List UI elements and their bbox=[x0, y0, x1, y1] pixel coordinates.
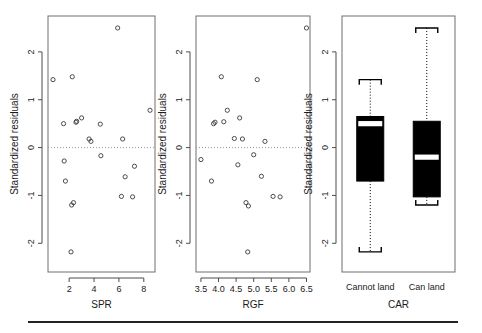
y-tick-label-rgf-3: -1 bbox=[174, 191, 184, 199]
x-tick-label-rgf-3: 5.0 bbox=[247, 284, 260, 294]
x-axis-title-car: CAR bbox=[388, 299, 409, 310]
y-tick-label-spr-0: 2 bbox=[26, 49, 36, 54]
y-tick-label-rgf-2: 0 bbox=[174, 145, 184, 150]
y-tick-label-car-2: 0 bbox=[320, 145, 330, 150]
y-axis-title-spr: Standardized residuals bbox=[9, 93, 20, 195]
y-tick-label-spr-2: 0 bbox=[26, 145, 36, 150]
x-tick-label-spr-1: 4 bbox=[92, 284, 97, 294]
x-tick-label-rgf-6: 6.5 bbox=[300, 284, 313, 294]
x-tick-label-rgf-1: 4.0 bbox=[212, 284, 225, 294]
y-tick-label-rgf-0: 2 bbox=[174, 49, 184, 54]
y-tick-label-car-3: -1 bbox=[320, 191, 330, 199]
median-line-0 bbox=[358, 121, 382, 126]
y-tick-label-spr-1: 1 bbox=[26, 97, 36, 102]
y-tick-label-spr-4: -2 bbox=[26, 239, 36, 247]
y-tick-label-car-1: 1 bbox=[320, 97, 330, 102]
y-tick-label-car-0: 2 bbox=[320, 49, 330, 54]
x-tick-label-spr-0: 2 bbox=[67, 284, 72, 294]
y-axis-title-rgf: Standardized residuals bbox=[157, 93, 168, 195]
residual-diagnostics-figure: 210-1-2Standardized residuals2468SPR 210… bbox=[0, 0, 482, 333]
x-axis-title-spr: SPR bbox=[91, 299, 112, 310]
y-tick-label-rgf-1: 1 bbox=[174, 97, 184, 102]
median-line-1 bbox=[415, 155, 439, 160]
x-tick-label-rgf-5: 6.0 bbox=[283, 284, 296, 294]
bottom-rule-divider bbox=[28, 321, 458, 323]
x-tick-label-rgf-4: 5.5 bbox=[265, 284, 278, 294]
x-tick-label-rgf-2: 4.5 bbox=[230, 284, 243, 294]
y-axis-title-car: Standardized residuals bbox=[303, 93, 314, 195]
x-tick-label-rgf-0: 3.5 bbox=[195, 284, 208, 294]
y-tick-label-spr-3: -1 bbox=[26, 191, 36, 199]
x-tick-label-spr-2: 6 bbox=[116, 284, 121, 294]
category-label-0: Cannot land bbox=[346, 282, 395, 292]
x-tick-label-spr-3: 8 bbox=[141, 284, 146, 294]
figure-canvas: 210-1-2Standardized residuals2468SPR 210… bbox=[0, 0, 482, 333]
y-tick-label-rgf-4: -2 bbox=[174, 239, 184, 247]
y-tick-label-car-4: -2 bbox=[320, 239, 330, 247]
x-axis-title-rgf: RGF bbox=[242, 299, 263, 310]
category-label-1: Can land bbox=[409, 282, 445, 292]
